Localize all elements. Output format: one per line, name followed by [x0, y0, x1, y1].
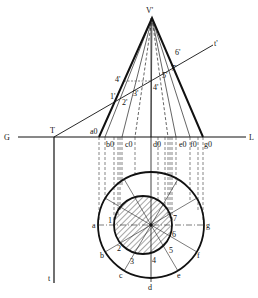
svg-text:5': 5'	[162, 71, 168, 80]
label-apex: V'	[146, 6, 154, 15]
svg-text:f: f	[197, 251, 200, 260]
svg-text:4: 4	[152, 256, 156, 265]
svg-text:g: g	[206, 221, 210, 230]
svg-text:a: a	[92, 221, 96, 230]
svg-text:6: 6	[172, 230, 176, 239]
svg-text:5: 5	[169, 246, 173, 255]
svg-text:4': 4'	[153, 83, 159, 92]
svg-text:d0: d0	[153, 140, 161, 149]
svg-text:g0: g0	[204, 140, 212, 149]
svg-text:e: e	[177, 271, 181, 280]
svg-text:4': 4'	[115, 75, 121, 84]
svg-text:d: d	[148, 283, 152, 292]
svg-text:b: b	[100, 251, 104, 260]
svg-text:3: 3	[130, 257, 134, 266]
label-t-prime: t'	[214, 39, 218, 48]
svg-text:2': 2'	[122, 98, 128, 107]
svg-text:f0: f0	[190, 140, 197, 149]
svg-text:a0: a0	[90, 127, 98, 136]
svg-text:b0: b0	[106, 140, 114, 149]
svg-text:1': 1'	[110, 92, 116, 101]
label-T: T	[50, 126, 55, 135]
label-L: L	[249, 133, 254, 142]
label-G: G	[4, 133, 10, 142]
svg-text:2: 2	[117, 244, 121, 253]
svg-text:1: 1	[108, 216, 112, 225]
svg-text:e0: e0	[179, 140, 187, 149]
svg-text:7: 7	[173, 214, 177, 223]
svg-text:c: c	[119, 271, 123, 280]
svg-text:3': 3'	[133, 89, 139, 98]
plan-center	[149, 223, 153, 227]
svg-text:c0: c0	[125, 140, 133, 149]
label-t: t	[48, 274, 51, 283]
svg-text:7': 7'	[171, 64, 177, 73]
cone-section-diagram: G L T t' t V' 1' 2' 3' 4' 4' 5' 6' 7' a0…	[0, 0, 258, 298]
svg-text:6': 6'	[175, 48, 181, 57]
